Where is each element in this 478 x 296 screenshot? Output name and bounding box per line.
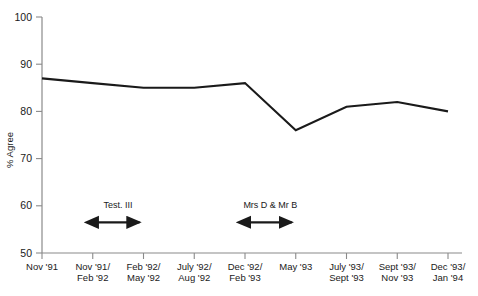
- y-tick-label-group: 5060708090100: [14, 11, 32, 259]
- x-tick-label: July '93/Sept '93: [329, 261, 364, 283]
- x-tick-label: Feb '92/May '92: [126, 261, 160, 283]
- y-tick-label: 70: [20, 152, 32, 164]
- data-series-line: [42, 78, 448, 130]
- y-tick-label: 60: [20, 199, 32, 211]
- y-tick-label: 50: [20, 247, 32, 259]
- x-tick-label: Dec '92/Feb '93: [228, 261, 263, 283]
- x-tick-label: Dec '93/Jan '94: [431, 261, 466, 283]
- x-tick-label: July '92/Aug '92: [177, 261, 212, 283]
- annotation-label: Test. III: [104, 200, 133, 210]
- x-tick-label-group: Nov '91Nov '91/Feb '92Feb '92/May '92Jul…: [26, 261, 466, 283]
- x-tick-group: [42, 253, 448, 259]
- y-tick-group: [36, 17, 42, 253]
- x-tick-label: Nov '91/Feb '92: [75, 261, 110, 283]
- x-tick-label: Nov '91: [26, 261, 58, 272]
- y-tick-label: 100: [14, 11, 32, 23]
- annotation-label: Mrs D & Mr B: [243, 200, 297, 210]
- x-tick-label: Sept '93/Nov '93: [379, 261, 417, 283]
- y-tick-label: 80: [20, 105, 32, 117]
- line-chart: 5060708090100 Nov '91Nov '91/Feb '92Feb …: [0, 0, 478, 296]
- x-tick-label: May '93: [279, 261, 312, 272]
- y-axis-title: % Agree: [4, 132, 15, 168]
- y-tick-label: 90: [20, 58, 32, 70]
- chart-container: 5060708090100 Nov '91Nov '91/Feb '92Feb …: [0, 0, 478, 296]
- annotation-group: Test. IIIMrs D & Mr B: [97, 200, 298, 222]
